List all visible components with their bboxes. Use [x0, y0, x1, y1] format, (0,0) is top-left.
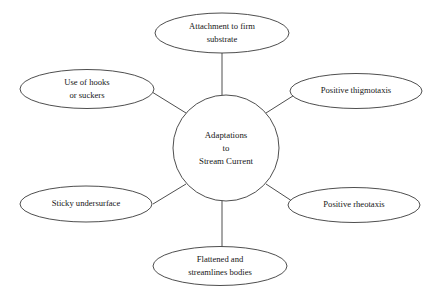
node-attachment-label-line1: Attachment to firm [189, 21, 255, 31]
node-flattened[interactable]: Flattened and streamlines bodies [153, 247, 287, 286]
connector-hub-to-thigmotaxis [266, 94, 296, 113]
hub-label-line2: to [223, 143, 230, 153]
node-attachment-ellipse [155, 13, 289, 53]
node-sticky-label-line1: Sticky undersurface [52, 198, 121, 208]
node-attachment-label-line2: substrate [207, 34, 238, 44]
node-thigmotaxis-label-line1: Positive thigmotaxis [321, 85, 392, 95]
node-flattened-ellipse [153, 247, 287, 286]
node-hooks-label-line2: or suckers [69, 90, 105, 100]
hub-label-line3: Stream Current [199, 156, 254, 166]
diagram-canvas: Attachment to firm substrate Use of hook… [0, 0, 439, 293]
connector-hub-to-hooks [152, 92, 186, 113]
node-rheotaxis[interactable]: Positive rheotaxis [288, 188, 420, 223]
connector-hub-to-sticky [153, 184, 186, 204]
node-attachment[interactable]: Attachment to firm substrate [155, 13, 289, 53]
node-hooks[interactable]: Use of hooks or suckers [20, 70, 154, 109]
node-hooks-label-line1: Use of hooks [64, 77, 110, 87]
node-rheotaxis-label-line1: Positive rheotaxis [323, 199, 385, 209]
node-flattened-label-line2: streamlines bodies [188, 267, 252, 277]
node-hooks-ellipse [20, 70, 154, 109]
hub-node[interactable]: Adaptations to Stream Current [173, 95, 279, 201]
node-sticky[interactable]: Sticky undersurface [20, 186, 152, 222]
hub-label-line1: Adaptations [205, 130, 248, 140]
node-thigmotaxis[interactable]: Positive thigmotaxis [290, 74, 422, 109]
node-flattened-label-line1: Flattened and [197, 254, 244, 264]
concept-map-diagram: Attachment to firm substrate Use of hook… [0, 0, 439, 293]
